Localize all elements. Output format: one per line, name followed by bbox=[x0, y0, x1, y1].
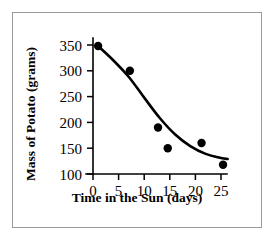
data-point bbox=[154, 123, 162, 131]
y-tick-label: 300 bbox=[60, 63, 83, 79]
y-tick-label: 150 bbox=[60, 141, 83, 157]
data-point bbox=[94, 42, 102, 50]
chart-figure-frame: 100150200250300350 0510152025 Time in th… bbox=[12, 12, 262, 228]
x-axis-title: Time in the Sun (days) bbox=[72, 190, 202, 205]
data-point bbox=[126, 67, 134, 75]
y-axis-tick-mark-group bbox=[87, 45, 93, 174]
y-tick-label: 350 bbox=[60, 38, 83, 54]
y-tick-label: 100 bbox=[60, 167, 83, 183]
x-tick-label: 25 bbox=[214, 183, 229, 199]
y-axis-title: Mass of Potato (grams) bbox=[23, 47, 38, 181]
x-axis-tick-mark-group bbox=[93, 174, 221, 180]
potato-mass-scatter-chart: 100150200250300350 0510152025 Time in th… bbox=[13, 13, 261, 227]
y-tick-label: 250 bbox=[60, 89, 83, 105]
data-point bbox=[219, 161, 227, 169]
best-fit-curve bbox=[98, 46, 228, 159]
data-point bbox=[164, 144, 172, 152]
y-tick-label: 200 bbox=[60, 115, 83, 131]
y-axis-tick-label-group: 100150200250300350 bbox=[60, 38, 83, 183]
data-point bbox=[197, 139, 205, 147]
